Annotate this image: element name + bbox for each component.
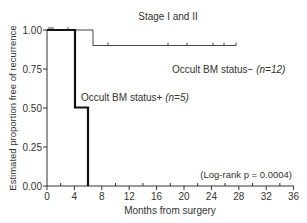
chart-title: Stage I and II	[138, 11, 198, 22]
y-axis-label: Estimated proportion free of recurrence	[7, 25, 18, 190]
x-tick-label: 36	[288, 191, 300, 202]
y-tick-label: 0.50	[23, 103, 43, 114]
y-tick-label: 0.75	[23, 64, 43, 75]
x-tick-label: 20	[178, 191, 190, 202]
km-chart: Stage I and II Estimated proportion free…	[0, 0, 307, 223]
x-tick-label: 28	[233, 191, 245, 202]
y-tick-label: 0.25	[23, 142, 43, 153]
series-label-bm-negative: Occult BM status− (n=12)	[172, 64, 285, 75]
x-axis-label: Months from surgery	[124, 205, 216, 216]
x-tick-label: 4	[72, 191, 78, 202]
x-tick-label: 0	[44, 191, 50, 202]
x-tick-label: 24	[206, 191, 218, 202]
logrank-annotation: (Log-rank p = 0.0004)	[200, 169, 292, 180]
x-tick-label: 12	[124, 191, 136, 202]
x-tick-label: 8	[99, 191, 105, 202]
y-tick-label: 0.00	[23, 181, 43, 192]
y-tick-label: 1.00	[23, 25, 43, 36]
series-bm-positive	[47, 30, 88, 186]
series-label-bm-positive: Occult BM status+ (n=5)	[81, 92, 189, 103]
x-tick-label: 16	[151, 191, 163, 202]
axes	[43, 30, 294, 190]
x-tick-label: 32	[261, 191, 273, 202]
